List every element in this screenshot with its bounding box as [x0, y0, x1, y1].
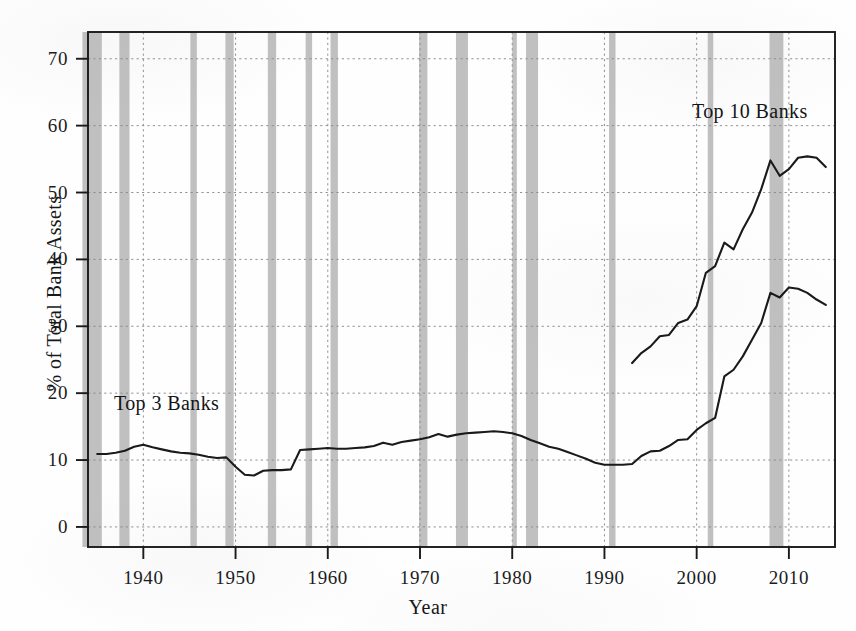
x-tick-label: 2010 — [769, 567, 809, 589]
series-annotation-top-10-banks: Top 10 Banks — [692, 100, 808, 123]
y-tick-label: 70 — [0, 48, 68, 70]
y-tick-label: 0 — [0, 516, 68, 538]
recession-band — [609, 32, 615, 547]
recession-band — [331, 32, 338, 547]
recession-band-group — [82, 32, 783, 547]
x-tick-label: 1980 — [492, 567, 532, 589]
recession-band — [119, 32, 129, 547]
recession-band — [306, 32, 312, 547]
x-axis-title: Year — [0, 596, 856, 619]
recession-band — [82, 32, 101, 547]
plot-area — [0, 0, 856, 631]
y-tick-label: 10 — [0, 449, 68, 471]
x-tick-label: 1970 — [400, 567, 440, 589]
y-axis-title: % of Total Bank Assets — [43, 144, 66, 444]
recession-band — [512, 32, 517, 547]
recession-band — [190, 32, 196, 547]
recession-band — [526, 32, 538, 547]
x-tick-label: 1940 — [123, 567, 163, 589]
tick-marks — [76, 59, 789, 559]
recession-band — [225, 32, 233, 547]
x-tick-label: 2000 — [676, 567, 716, 589]
x-tick-label: 1960 — [308, 567, 348, 589]
y-tick-label: 60 — [0, 115, 68, 137]
x-tick-label: 1990 — [584, 567, 624, 589]
x-tick-label: 1950 — [215, 567, 255, 589]
bank-concentration-chart: 010203040506070 194019501960197019801990… — [0, 0, 856, 631]
recession-band — [456, 32, 468, 547]
series-annotation-top-3-banks: Top 3 Banks — [114, 392, 219, 415]
